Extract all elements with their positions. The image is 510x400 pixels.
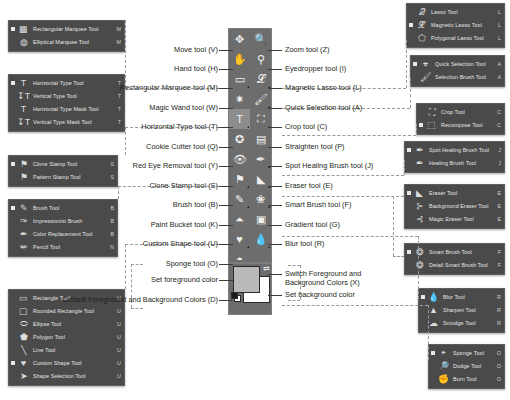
flyout-item[interactable]: 𝓛Magnetic Lasso ToolL	[407, 19, 504, 32]
leader-line	[219, 147, 233, 148]
flyout-item-label: Custom Shape Tool	[33, 357, 113, 370]
flyout-item[interactable]: 💧Blur ToolR	[419, 291, 504, 304]
leader-line	[268, 108, 282, 109]
tool-smart-brush[interactable]: ❀	[250, 189, 271, 209]
flyout-item[interactable]: 🖌Selection Brush ToolA	[411, 71, 504, 84]
switch-colors-icon[interactable]: ⇄	[262, 264, 271, 273]
flyout-item[interactable]: ⬭Ellipse ToolU	[9, 318, 124, 331]
foreground-color-swatch[interactable]	[233, 266, 260, 293]
flyout-item-label: Polygonal Lasso Tool	[431, 32, 494, 45]
flyout-connector	[125, 20, 126, 88]
leader-line	[268, 244, 282, 245]
selected-marker	[11, 322, 16, 327]
flyout-item[interactable]: ⬟Polygon ToolU	[9, 331, 124, 344]
flyout-connector	[282, 305, 428, 306]
eraser-icon: ◣	[413, 188, 426, 200]
selected-marker	[11, 120, 16, 125]
quick-selection-flyout[interactable]: ⌖Quick Selection ToolA🖌Selection Brush T…	[410, 55, 505, 87]
tool-hand[interactable]: ✋	[229, 49, 250, 69]
tool-crop[interactable]: ⛶	[250, 109, 271, 129]
tool-custom-shape[interactable]: ♥	[229, 229, 250, 249]
flyout-item[interactable]: ⌖Quick Selection ToolA	[411, 58, 504, 71]
flyout-item[interactable]: ✊Burn ToolO	[429, 373, 504, 386]
line-icon: ╲	[17, 345, 30, 357]
selected-marker	[421, 308, 426, 313]
lasso-flyout[interactable]: 𝒬Lasso ToolL𝓛Magnetic Lasso ToolL⬠Polygo…	[406, 3, 505, 48]
tool-rect-marquee[interactable]: ▭	[229, 69, 250, 89]
flyout-item-shortcut: M	[113, 23, 122, 36]
smart-brush-flyout[interactable]: ❂Smart Brush ToolF❂Detail Smart Brush To…	[404, 243, 505, 275]
eraser-flyout[interactable]: ◣Eraser ToolE⊱Background Eraser ToolE⊰Ma…	[404, 184, 505, 229]
flyout-item-label: Eraser Tool	[429, 187, 493, 200]
flyout-item[interactable]: 🔎Dodge ToolO	[429, 360, 504, 373]
crop-flyout[interactable]: ⛶Crop ToolC⬚Recompose ToolC	[416, 103, 505, 135]
magnetic-lasso-icon: 𝓛	[415, 20, 428, 32]
blur-flyout[interactable]: 💧Blur ToolR▲Sharpen ToolR☁Smudge ToolR	[418, 288, 505, 333]
leader-line	[219, 244, 233, 245]
leader-line	[268, 88, 282, 89]
flyout-connector	[393, 256, 404, 257]
selected-marker	[413, 75, 418, 80]
flyout-item[interactable]: 𝒬Lasso ToolL	[407, 6, 504, 19]
flyout-item[interactable]: ❂Detail Smart Brush ToolF	[405, 259, 504, 272]
flyout-item[interactable]: ◣Eraser ToolE	[405, 187, 504, 200]
leader-line	[219, 280, 233, 281]
callout-eraser-tool: Eraser tool (E)	[285, 181, 333, 190]
move-icon: ✥	[235, 34, 244, 45]
flyout-item-label: Rectangular Marquee Tool	[33, 23, 113, 36]
flyout-item[interactable]: ╲Line ToolU	[9, 344, 124, 357]
flyout-item[interactable]: ✒Spot Healing Brush ToolJ	[405, 144, 504, 157]
tool-quick-selection[interactable]: 🖌	[250, 89, 271, 109]
selected-marker	[11, 27, 16, 32]
flyout-item[interactable]: ♥Custom Shape ToolU	[9, 357, 124, 370]
tool-paint-bucket[interactable]: ⏶	[229, 209, 250, 229]
flyout-item[interactable]: ⛶Crop ToolC	[417, 106, 504, 119]
clone-stamp-icon: ⚑	[17, 159, 30, 171]
flyout-item[interactable]: ▲Sharpen ToolR	[419, 304, 504, 317]
flyout-item[interactable]: ⊱Background Eraser ToolE	[405, 200, 504, 213]
flyout-item-shortcut: U	[113, 357, 121, 370]
flyout-item[interactable]: ⊰Magic Eraser ToolE	[405, 213, 504, 226]
flyout-item[interactable]: ➤Shape Selection ToolU	[9, 370, 124, 383]
leader-line	[268, 166, 282, 167]
custom-shape-icon: ♥	[17, 358, 30, 370]
flyout-item[interactable]: ⬠Polygonal Lasso ToolL	[407, 32, 504, 45]
callout-red-eye-removal-tool: Red Eye Removal tool (Y)	[40, 161, 218, 170]
selected-marker	[11, 296, 16, 301]
tool-magic-wand[interactable]: ✷	[229, 89, 250, 109]
flyout-item[interactable]: ☁Smudge ToolR	[419, 317, 504, 330]
flyout-connector	[416, 124, 417, 135]
flyout-item[interactable]: ✒Healing Brush ToolJ	[405, 157, 504, 170]
sponge-flyout[interactable]: ◓Sponge ToolO🔎Dodge ToolO✊Burn ToolO	[428, 344, 505, 389]
callout-paint-bucket-tool: Paint Bucket tool (K)	[40, 220, 218, 229]
selected-marker	[431, 364, 436, 369]
tool-move[interactable]: ✥	[229, 29, 250, 49]
tool-gradient[interactable]: ▣	[250, 209, 271, 229]
flyout-item[interactable]: ◓Sponge ToolO	[429, 347, 504, 360]
flyout-item[interactable]: ❂Smart Brush ToolF	[405, 246, 504, 259]
tools-palette[interactable]: ✥🔍✋⚲▭𝓛✷🖌T⛶✪▤👁✒⚑◣✎❀⏶▣♥💧◓	[228, 28, 272, 263]
callout-cookie-cutter-tool: Cookie Cutter tool (Q)	[40, 142, 218, 151]
selected-marker	[419, 123, 424, 128]
tool-brush[interactable]: ✎	[229, 189, 250, 209]
flyout-item[interactable]: ⬚Recompose ToolC	[417, 119, 504, 132]
selected-marker	[11, 309, 16, 314]
blur-icon: 💧	[427, 292, 440, 304]
flyout-item[interactable]: ▩Rectangular Marquee ToolM	[9, 23, 124, 36]
callout-gradient-tool: Gradient tool (G)	[285, 220, 340, 229]
flyout-connector	[393, 196, 394, 256]
tool-straighten[interactable]: ▤	[250, 129, 271, 149]
tool-eyedropper[interactable]: ⚲	[250, 49, 271, 69]
flyout-item[interactable]: ▢Rounded Rectangle ToolU	[9, 305, 124, 318]
healing-flyout[interactable]: ✒Spot Healing Brush ToolJ✒Healing Brush …	[404, 141, 505, 173]
diagram-canvas: ▩Rectangular Marquee ToolM◍Elliptical Ma…	[0, 0, 510, 400]
color-controls[interactable]: ⇄	[228, 263, 272, 315]
tool-horizontal-type[interactable]: T	[229, 109, 250, 129]
tool-cookie-cutter[interactable]: ✪	[229, 129, 250, 149]
selected-marker	[407, 161, 412, 166]
flyout-connector	[282, 196, 404, 197]
tool-zoom[interactable]: 🔍	[250, 29, 271, 49]
tool-blur[interactable]: 💧	[250, 229, 271, 249]
selected-marker	[11, 206, 16, 211]
tool-magnetic-lasso[interactable]: 𝓛	[250, 69, 271, 89]
